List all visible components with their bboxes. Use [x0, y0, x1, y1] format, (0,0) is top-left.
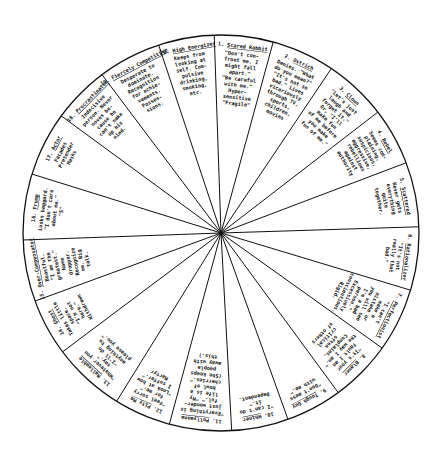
wedge-17: 17. ActorFacadesPretenderMasks [44, 134, 80, 171]
wedge-text: 13. Malleable"Whatever yousay.""I'll doa… [77, 331, 134, 388]
wedge-divider [221, 233, 338, 393]
wedge-divider [221, 233, 411, 290]
wedge-4: 4. RebelSeems com-plaining,suspicious,ag… [334, 125, 396, 180]
wedge-6: 6. Rationalizer"It's notreally thatbad." [381, 231, 413, 281]
wedge-text: 5. ScatteredNever getseverythingquitetog… [372, 177, 412, 220]
personality-wheel: 1. Scared Rabbit"Don't con-front me. Imi… [0, 0, 442, 461]
wedge-text: 11. Pollyanna"Everything isjust wonder-f… [179, 351, 230, 425]
wedge-divider [23, 233, 221, 240]
wedge-text: 10. Whiner"I can't doit."Dependent. [237, 390, 276, 424]
wedge-divider [63, 233, 221, 352]
wedge-11: 11. Pollyanna"Everything isjust wonder-f… [179, 351, 230, 425]
wedge-1: 1. Scared Rabbit"Don't con-front me. Imi… [211, 40, 268, 110]
wedge-divider [214, 35, 221, 233]
wedge-dividers [23, 35, 419, 431]
wedge-divider [221, 233, 232, 431]
wedge-5: 5. ScatteredNever getseverythingquitetog… [372, 177, 412, 220]
wedge-divider [61, 116, 221, 233]
wedge-text: 16. FrumpLooks haggard."I don't careabou… [29, 186, 67, 234]
wedge-16: 16. FrumpLooks haggard."I don't careabou… [29, 186, 67, 234]
wedge-divider [221, 227, 419, 233]
wedge-9: 9. Tough Guy"Don't messwith me." [285, 375, 328, 410]
wedge-text: 9. Tough Guy"Don't messwith me." [285, 375, 328, 410]
wedge-text: 1. Scared Rabbit"Don't con-front me. Imi… [211, 40, 268, 110]
wedge-text: 17. ActorFacadesPretenderMasks [44, 134, 80, 171]
wedge-divider [221, 233, 288, 419]
wedge-10: 10. Whiner"I can't doit."Dependent. [237, 390, 276, 424]
wedge-divider [32, 174, 221, 233]
wedge-text: 4. RebelSeems com-plaining,suspicious,ag… [334, 125, 396, 180]
wedge-text: 6. Rationalizer"It's notreally thatbad." [381, 231, 413, 281]
wedge-13: 13. Malleable"Whatever yousay.""I'll doa… [77, 331, 134, 388]
